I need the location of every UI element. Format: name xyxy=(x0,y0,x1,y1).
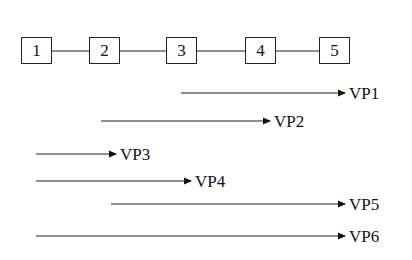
node-label: 2 xyxy=(100,41,109,61)
node-5: 5 xyxy=(319,37,350,64)
node-1: 1 xyxy=(21,37,52,64)
node-2: 2 xyxy=(89,37,120,64)
path-label-vp2: VP2 xyxy=(274,113,304,130)
path-label-vp1: VP1 xyxy=(349,85,379,102)
node-label: 1 xyxy=(32,41,41,61)
node-4: 4 xyxy=(245,37,276,64)
connectors xyxy=(0,0,412,260)
diagram-canvas: 1 2 3 4 5 VP1 VP2 VP3 VP4 VP5 VP6 xyxy=(0,0,412,260)
path-label-vp3: VP3 xyxy=(120,146,150,163)
path-label-vp6: VP6 xyxy=(349,228,379,245)
path-label-vp4: VP4 xyxy=(195,173,225,190)
node-3: 3 xyxy=(166,37,197,64)
node-label: 4 xyxy=(256,41,265,61)
node-label: 5 xyxy=(330,41,339,61)
node-label: 3 xyxy=(177,41,186,61)
path-label-vp5: VP5 xyxy=(349,196,379,213)
